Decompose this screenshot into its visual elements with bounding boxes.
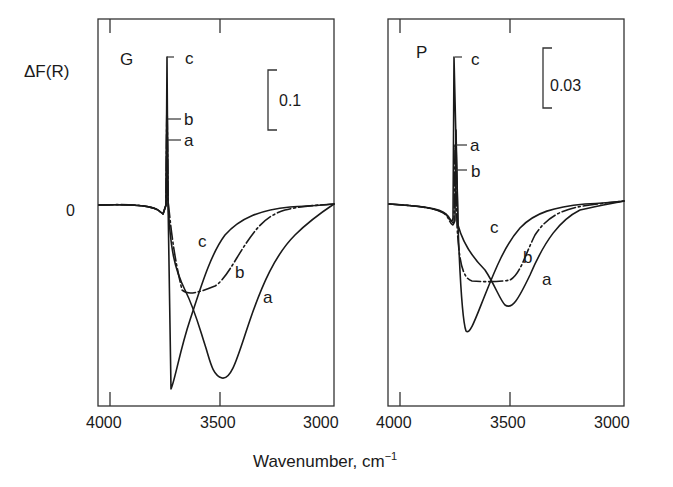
panel-g-curve-b (99, 88, 334, 293)
panel-g-band-label-a: a (263, 288, 273, 307)
panel-p-peak-label-b: b (471, 162, 480, 181)
panel-g-xtick-3000: 3000 (303, 414, 339, 431)
panel-g-xtick-4000: 4000 (86, 414, 122, 431)
panel-p-peak-label-a: a (470, 136, 480, 155)
panel-p-band-label-a: a (542, 270, 552, 289)
panel-p-scale-label: 0.03 (550, 77, 581, 94)
y-axis-label: ΔF(R) (24, 62, 69, 81)
panel-p-curve-c (389, 57, 624, 332)
panel-p-peak-label-c: c (471, 50, 480, 69)
panel-g-scale-label: 0.1 (279, 92, 301, 109)
panel-p-band-label-b: b (523, 248, 532, 267)
panel-g-peak-label-b: b (184, 110, 193, 129)
panel-g-peak-label-c: c (185, 49, 194, 68)
panel-g-band-label-c: c (198, 232, 207, 251)
panel-g-peak-label-a: a (184, 131, 194, 150)
panel-g-scale-bar (268, 70, 277, 130)
x-axis-label-sup: −1 (385, 450, 398, 462)
panel-g-band-label-b: b (235, 263, 244, 282)
x-axis-label-text: Wavenumber, cm (253, 452, 385, 471)
panel-g-curve-a (99, 98, 334, 378)
panel-p-curve-b (389, 145, 624, 282)
panel-p-xtick-4000: 4000 (376, 414, 412, 431)
panel-p-label: P (416, 43, 427, 62)
figure: ΔF(R) 0 Wavenumber, cm−1 G 0.1 4000 3500… (0, 0, 673, 487)
panel-g: G 0.1 4000 3500 3000 c b a c b a (86, 19, 339, 431)
panel-p-xtick-3500: 3500 (490, 414, 526, 431)
zero-label-left: 0 (66, 202, 75, 219)
panel-g-frame (98, 19, 334, 406)
panel-p-band-label-c: c (490, 218, 499, 237)
panel-p-xtick-3000: 3000 (594, 414, 630, 431)
x-axis-label: Wavenumber, cm−1 (253, 450, 397, 471)
panel-p-frame (388, 19, 624, 406)
panel-g-label: G (120, 50, 133, 69)
panel-p: P 0.03 4000 3500 3000 c a b c b a (376, 19, 630, 431)
panel-g-xtick-3500: 3500 (200, 414, 236, 431)
